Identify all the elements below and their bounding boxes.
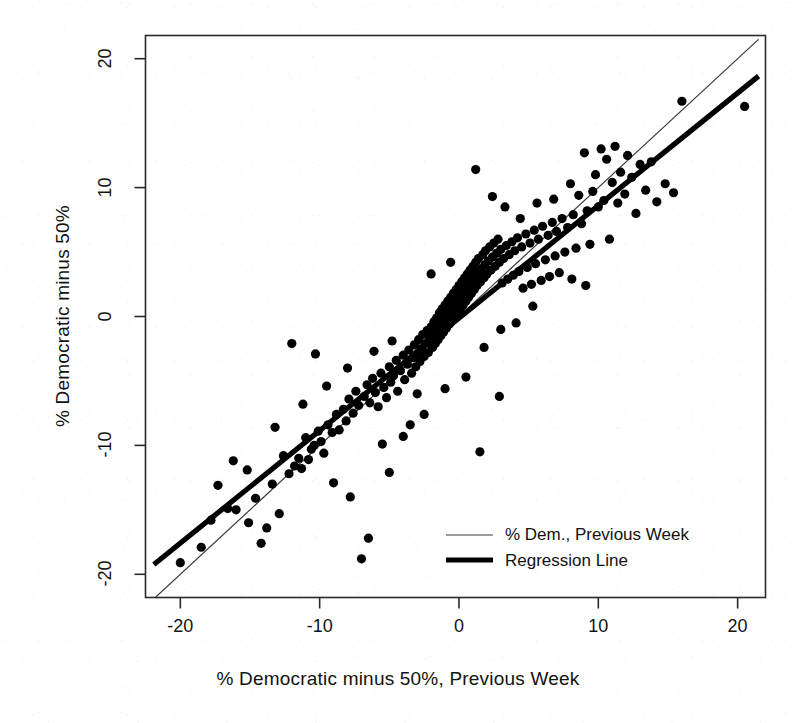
scatter-point (740, 102, 749, 111)
legend-entry-regression-line-label: Regression Line (505, 551, 628, 571)
y-axis-title: % Democratic minus 50% (52, 35, 74, 597)
scatter-point (552, 227, 561, 236)
scatter-point (636, 160, 645, 169)
scatter-point (206, 516, 215, 525)
scatter-point (527, 280, 536, 289)
scatter-point (368, 374, 377, 383)
scatter-point (349, 409, 358, 418)
scatter-point (323, 420, 332, 429)
scatter-point (311, 349, 320, 358)
y-axis-tick-label: 10 (94, 157, 115, 217)
y-axis-tick-marks (135, 59, 146, 575)
scatter-point (364, 534, 373, 543)
scatter-point (669, 188, 678, 197)
scatter-point (406, 420, 415, 429)
scatter-point (521, 229, 530, 238)
scatter-point (378, 440, 387, 449)
scatter-point (528, 302, 537, 311)
scatter-point (176, 558, 185, 567)
scatter-point (343, 363, 352, 372)
scatter-point (471, 165, 480, 174)
scatter-point (530, 226, 539, 235)
scatter-point (365, 398, 374, 407)
scatter-point (537, 276, 546, 285)
scatter-point (270, 423, 279, 432)
scatter-point (551, 251, 560, 260)
scatter-point (420, 410, 429, 419)
scatter-point (357, 554, 366, 563)
scatter-point (493, 235, 502, 244)
scatter-point (538, 222, 547, 231)
scatter-point (544, 231, 553, 240)
scatter-point (314, 427, 323, 436)
scatter-point (446, 258, 455, 267)
scatter-point (382, 393, 391, 402)
scatter-point (557, 214, 566, 223)
scatter-point (257, 539, 266, 548)
scatter-point (413, 389, 422, 398)
scatter-point (322, 382, 331, 391)
scatter-point (376, 369, 385, 378)
scatter-point (525, 238, 534, 247)
scatter-point (262, 523, 271, 532)
scatter-point (284, 469, 293, 478)
scatter-point (627, 173, 636, 182)
scatter-point (581, 281, 590, 290)
scatter-point (440, 384, 449, 393)
scatter-point (251, 494, 260, 503)
scatter-point (566, 179, 575, 188)
scatter-point (496, 325, 505, 334)
scatter-point (385, 362, 394, 371)
scatter-point (567, 275, 576, 284)
scatter-point (342, 416, 351, 425)
y-axis-tick-label: 20 (94, 28, 115, 88)
scatter-point (548, 218, 557, 227)
scatter-point (335, 425, 344, 434)
scatter-point (541, 255, 550, 264)
scatter-point (555, 268, 564, 277)
y-axis-tick-label: -20 (94, 544, 115, 604)
scatter-point (268, 479, 277, 488)
scatter-point (231, 505, 240, 514)
scatter-point (354, 401, 363, 410)
x-axis-tick-label: -10 (290, 616, 350, 637)
scatter-point (301, 433, 310, 442)
scatter-point (641, 186, 650, 195)
scatter-point (571, 244, 580, 253)
scatter-point (346, 492, 355, 501)
scatter-point (479, 343, 488, 352)
scatter-point (279, 451, 288, 460)
scatter-point (495, 392, 504, 401)
scatter-point (602, 155, 611, 164)
scatter-point (351, 387, 360, 396)
scatter-point (545, 272, 554, 281)
scatter-point (623, 151, 632, 160)
scatter-point (620, 189, 629, 198)
scatter-point (374, 402, 383, 411)
scatter-point (608, 178, 617, 187)
scatter-point (213, 481, 222, 490)
scatter-point (591, 170, 600, 179)
scatter-point (319, 449, 328, 458)
scatter-point (500, 202, 509, 211)
scatter-point (563, 223, 572, 232)
scatter-point (244, 518, 253, 527)
scatter-point (461, 372, 470, 381)
scatter-point (661, 179, 670, 188)
scatter-point (677, 97, 686, 106)
scatter-point (652, 197, 661, 206)
plot-canvas (0, 0, 796, 723)
scatter-point (275, 509, 284, 518)
scatter-point (532, 198, 541, 207)
scatter-point (516, 214, 525, 223)
scatter-point (610, 142, 619, 151)
scatter-point (243, 465, 252, 474)
scatter-point (399, 432, 408, 441)
scatter-point (385, 468, 394, 477)
scatter-point (613, 198, 622, 207)
legend-entry-previous-week-label: % Dem., Previous Week (505, 525, 689, 545)
scatter-point (647, 157, 656, 166)
scatter-point (580, 148, 589, 157)
scatter-point (287, 339, 296, 348)
scatter-point (577, 219, 586, 228)
